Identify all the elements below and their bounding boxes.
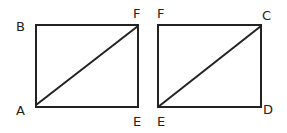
label-b: B <box>16 19 25 34</box>
diagram-canvas: B F A E F C E D <box>0 0 287 133</box>
diagonal-ec <box>158 26 261 107</box>
label-e-right: E <box>157 114 165 129</box>
label-d: D <box>263 102 273 117</box>
rectangle-abef <box>36 25 138 107</box>
diagonal-af <box>36 26 138 105</box>
label-e-left: E <box>133 114 141 129</box>
label-a: A <box>16 103 25 118</box>
label-c: C <box>262 8 271 23</box>
rectangle-fcde <box>158 25 261 107</box>
label-f-left: F <box>133 6 140 21</box>
label-f-right: F <box>157 6 164 21</box>
